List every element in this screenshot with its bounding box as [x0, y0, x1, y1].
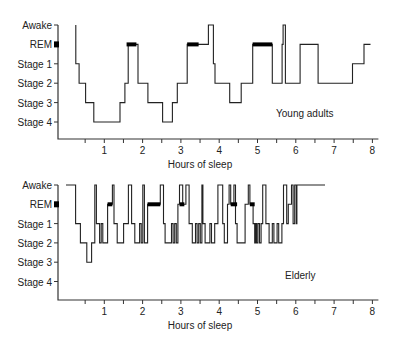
y-label: Stage 4: [18, 117, 53, 128]
young-y-axis-labels: AwakeREMStage 1Stage 2Stage 3Stage 4: [18, 20, 58, 128]
x-tick-label: 7: [331, 306, 337, 317]
elderly-x-axis-title: Hours of sleep: [168, 320, 233, 331]
young-adults-chart: AwakeREMStage 1Stage 2Stage 3Stage 4 123…: [18, 20, 379, 170]
x-tick-label: 8: [370, 306, 376, 317]
y-label: Stage 3: [18, 257, 53, 268]
y-label: Stage 2: [18, 238, 53, 249]
x-tick-label: 2: [140, 145, 146, 156]
elderly-rem-bars: [54, 201, 255, 207]
y-label: Awake: [22, 180, 52, 191]
y-label: Stage 4: [18, 277, 53, 288]
x-tick-label: 1: [102, 306, 108, 317]
y-label: Stage 1: [18, 219, 53, 230]
x-tick-label: 8: [370, 145, 376, 156]
x-tick-label: 2: [140, 306, 146, 317]
elderly-label: Elderly: [285, 270, 316, 281]
elderly-x-ticks: 12345678: [85, 300, 375, 317]
x-tick-label: 7: [331, 145, 337, 156]
x-tick-label: 1: [102, 145, 108, 156]
young-adults-label: Young adults: [276, 108, 333, 119]
young-rem-bars: [54, 41, 272, 47]
x-tick-label: 5: [255, 145, 261, 156]
x-tick-label: 4: [216, 145, 222, 156]
y-label: REM: [30, 39, 52, 50]
elderly-chart: AwakeREMStage 1Stage 2Stage 3Stage 4 123…: [18, 180, 379, 331]
y-label: Stage 3: [18, 98, 53, 109]
x-tick-label: 6: [293, 145, 299, 156]
young-x-ticks: 12345678: [85, 139, 375, 156]
x-tick-label: 4: [216, 306, 222, 317]
y-label: Stage 1: [18, 59, 53, 70]
young-x-axis-title: Hours of sleep: [168, 159, 233, 170]
x-tick-label: 5: [255, 306, 261, 317]
y-label: REM: [30, 199, 52, 210]
y-label: Awake: [22, 20, 52, 31]
sleep-hypnogram-figure: AwakeREMStage 1Stage 2Stage 3Stage 4 123…: [0, 0, 396, 345]
elderly-hypnogram-trace: [66, 185, 325, 262]
elderly-y-axis-labels: AwakeREMStage 1Stage 2Stage 3Stage 4: [18, 180, 58, 288]
x-tick-label: 6: [293, 306, 299, 317]
y-label: Stage 2: [18, 78, 53, 89]
x-tick-label: 3: [178, 145, 184, 156]
x-tick-label: 3: [178, 306, 184, 317]
